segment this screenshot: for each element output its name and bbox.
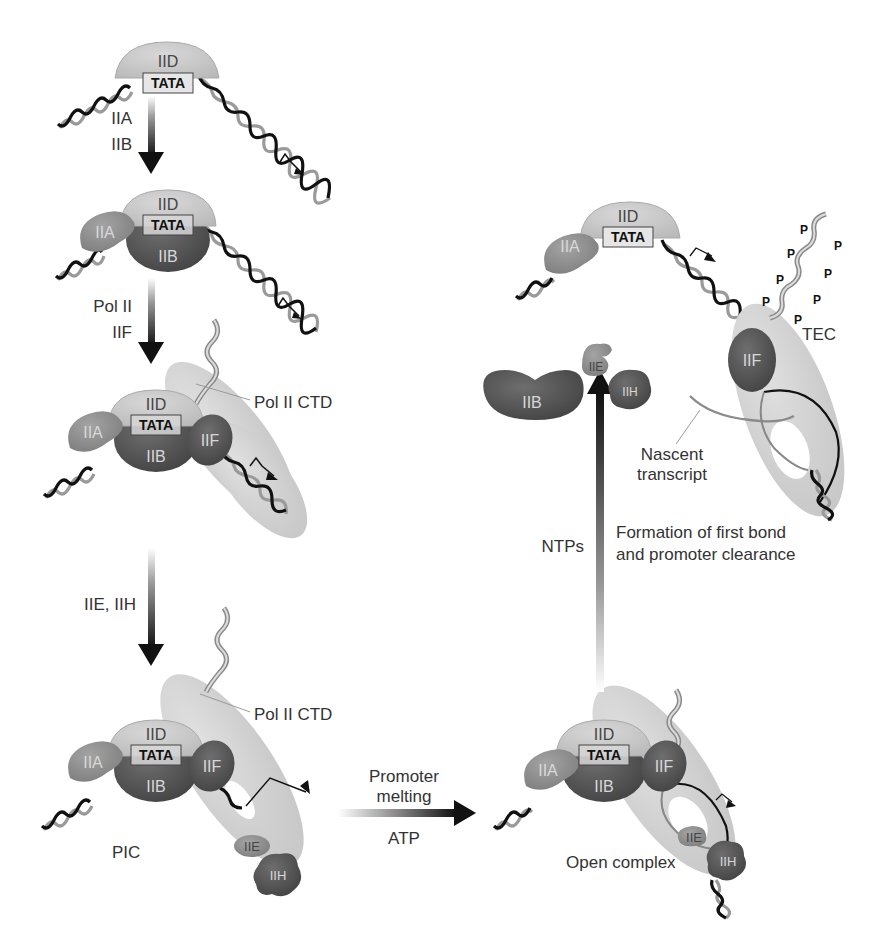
iie-label: IIE — [686, 830, 702, 845]
iid-label: IID — [158, 53, 178, 70]
step-tec: IID IIA TATA IIB IIE IIH IIF Nascent tra… — [483, 202, 867, 530]
iia-label: IIA — [83, 754, 103, 771]
ntps-label: NTPs — [542, 537, 585, 556]
tata-label: TATA — [151, 75, 185, 91]
iie-label: IIE — [589, 360, 604, 374]
dna-left — [42, 800, 92, 830]
dna-right — [198, 218, 318, 333]
arrow2-label-b: IIF — [112, 323, 132, 342]
iid-label: IID — [594, 726, 614, 743]
phosphate: P — [776, 273, 784, 287]
step-pol-ii-recruited: Pol II CTD IID IIA IIB IIF TATA — [44, 320, 332, 554]
iih-label: IIH — [270, 868, 287, 883]
pol-ii-ctd — [206, 608, 228, 692]
pic-label: PIC — [112, 843, 140, 862]
tata-label: TATA — [611, 229, 645, 245]
iib-label: IIB — [594, 778, 614, 795]
promoter-melting-label-2: melting — [377, 787, 432, 806]
arrow2-label-a: Pol II — [93, 297, 132, 316]
iif-label: IIF — [743, 352, 762, 369]
iih-label: IIH — [622, 385, 637, 399]
arrow-step3: IIE, IIH — [84, 548, 164, 666]
pol-ii-ctd-callout: Pol II CTD — [254, 393, 332, 412]
iia-label: IIA — [95, 224, 115, 241]
dna-left — [56, 250, 104, 280]
iid-label: IID — [146, 726, 166, 743]
dna-left — [516, 278, 554, 300]
iid-label: IID — [158, 196, 178, 213]
iid-label: IID — [618, 208, 638, 225]
dna-right — [198, 74, 330, 203]
iia-label: IIA — [538, 762, 558, 779]
tec-label: TEC — [802, 325, 836, 344]
phosphate: P — [794, 313, 802, 327]
iif-label: IIF — [203, 758, 222, 775]
iia-label: IIA — [560, 238, 580, 255]
phosphate: P — [762, 295, 770, 309]
tata-label: TATA — [587, 747, 621, 763]
iif-label: IIF — [655, 758, 674, 775]
iia-label: IIA — [83, 424, 103, 441]
phosphate: P — [824, 267, 832, 281]
phosphate: P — [813, 293, 821, 307]
arrow-step2: Pol II IIF — [93, 278, 164, 364]
first-bond-label-2: and promoter clearance — [616, 545, 796, 564]
phosphate: P — [800, 223, 808, 237]
iib-label: IIB — [146, 448, 166, 465]
transcription-initiation-diagram: IID TATA IIA IIB IIA IID IIB TATA P — [0, 0, 891, 937]
open-complex-label: Open complex — [566, 853, 676, 872]
nascent-label-2: transcript — [637, 465, 707, 484]
phosphate: P — [787, 247, 795, 261]
arrow-promoter-melting: Promoter melting ATP — [338, 767, 476, 848]
pol-ii — [708, 290, 867, 531]
step-open-complex: IID IIA IIB IIF IIE IIH TATA Open comple… — [494, 664, 762, 918]
iib-label: IIB — [146, 778, 166, 795]
iid-label: IID — [146, 396, 166, 413]
first-bond-label-1: Formation of first bond — [616, 523, 786, 542]
pol-ii-ctd-callout: Pol II CTD — [254, 705, 332, 724]
iie-label: IIE — [244, 839, 260, 854]
tata-label: TATA — [151, 217, 185, 233]
atp-label: ATP — [388, 829, 420, 848]
arrow1-label-a: IIA — [111, 109, 132, 128]
step-iid-bound: IID TATA — [58, 42, 330, 203]
tata-label: TATA — [139, 747, 173, 763]
iih-label: IIH — [720, 854, 737, 869]
iif-label: IIF — [201, 432, 220, 449]
arrow3-label: IIE, IIH — [84, 595, 136, 614]
iib-label: IIB — [522, 394, 542, 411]
dna-exit — [712, 880, 730, 918]
arrow1-label-b: IIB — [111, 135, 132, 154]
nascent-label-1: Nascent — [641, 445, 704, 464]
phosphate: P — [834, 239, 842, 253]
dna-left — [494, 808, 532, 830]
dna-left — [44, 468, 94, 498]
tata-label: TATA — [139, 417, 173, 433]
arrow-step1: IIA IIB — [111, 96, 164, 174]
promoter-melting-label-1: Promoter — [369, 767, 439, 786]
iib-label: IIB — [158, 248, 178, 265]
step-pic: Pol II CTD IID IIA IIB IIF IIE IIH TATA … — [42, 608, 332, 896]
